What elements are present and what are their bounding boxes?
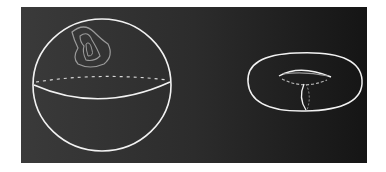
sphere-torus-illustration (0, 0, 386, 172)
board-shading (21, 7, 367, 163)
